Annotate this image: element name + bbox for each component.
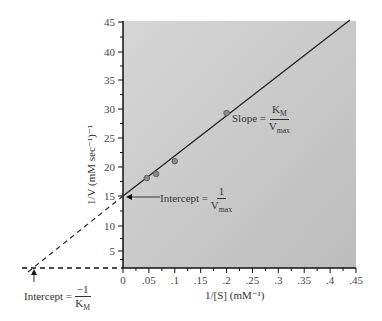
data-point [144,175,150,181]
x-tick-label: .05 [142,274,156,286]
y-tick-label: 5 [110,245,116,257]
y-tick-label: 10 [104,220,116,232]
plot-area [123,21,356,268]
y-axis-label: 1/V (mM sec⁻¹)⁻¹ [85,125,98,205]
data-point [172,158,178,164]
lineweaver-burk-plot: 51015202530354045 0.05.1.15.2.25.3.35.4.… [0,0,382,321]
y-tick-label: 15 [104,190,116,202]
slope-annotation: Slope = KMVmax [232,104,290,135]
x-tick-label: .2 [222,274,230,286]
x-axis-ticks: 0.05.1.15.2.25.3.35.4.45 [120,268,363,286]
x-tick-label: .45 [349,274,363,286]
y-tick-label: 20 [104,161,116,173]
x-tick-label: .15 [194,274,208,286]
y-axis-ticks: 51015202530354045 [104,16,123,260]
y-tick-label: 35 [104,74,116,86]
x-tick-label: .4 [326,274,335,286]
y-tick-label: 40 [104,46,116,58]
x-intercept-arrowhead [31,269,37,275]
x-axis-label: 1/[S] (mM⁻¹) [205,289,265,302]
x-tick-label: .3 [274,274,283,286]
x-tick-label: .35 [297,274,311,286]
y-tick-label: 45 [104,16,116,28]
x-tick-label: .1 [171,274,179,286]
x-tick-label: .25 [246,274,260,286]
y-tick-label: 25 [104,132,116,144]
y-intercept-annotation: Intercept = 1Vmax [160,186,232,214]
data-point [153,171,159,177]
x-tick-label: 0 [120,274,126,286]
data-point [224,110,230,116]
fit-line-dashed-extrapolation [28,196,123,272]
x-intercept-annotation: Intercept = −1KM [24,284,91,312]
y-tick-label: 30 [104,103,116,115]
